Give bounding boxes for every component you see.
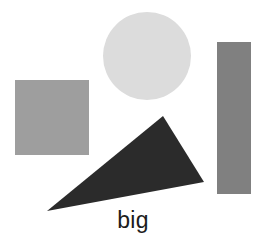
light-gray-circle (103, 12, 191, 100)
gray-square (15, 80, 89, 155)
shape-layer (0, 0, 266, 241)
figure-canvas: big (0, 0, 266, 241)
caption-label: big (0, 206, 266, 234)
gray-vertical-rectangle (217, 42, 251, 194)
